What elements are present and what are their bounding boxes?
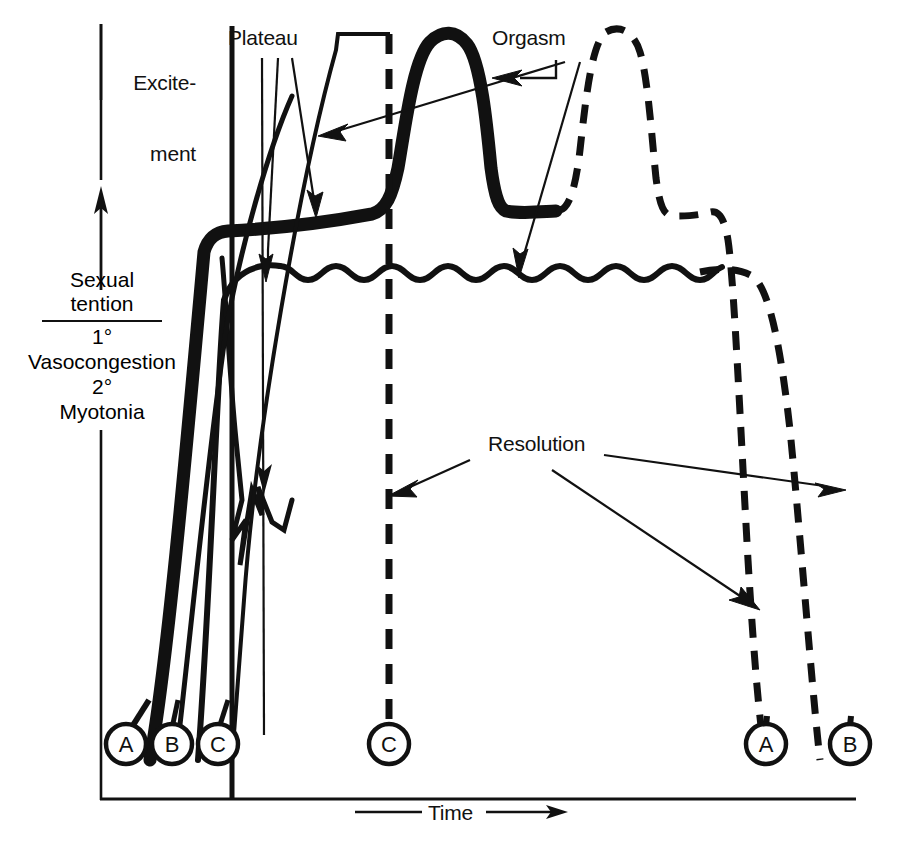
phase-label-plateau: Plateau [228,26,298,50]
plateau-leader-long [262,58,264,735]
resolution-arrow-up-right [815,483,846,497]
phase-label-excitement-line1: Excite- [102,71,196,95]
marker-a-right[interactable]: A [746,716,786,764]
plateau-arrow-thick [307,190,323,218]
y-axis-sub1-text: Vasocongestion [0,349,204,374]
curve-a-thick [150,33,556,760]
y-axis-label-group: Sexual tention 1° Vasocongestion 2° Myot… [0,268,204,425]
resolution-arrow-left [388,480,418,497]
phase-label-excitement-line2: ment [102,142,196,166]
curve-b-dashed [556,29,766,760]
resolution-leader-up-right [604,455,824,486]
y-axis-sub2: 2° [0,374,204,399]
y-axis-label-line1: Sexual [0,268,204,292]
degree-dot-icon-2: ° [104,375,112,398]
x-axis-label: Time [428,801,473,825]
y-axis-sub1: 1° [0,324,204,349]
marker-c-right-label: C [381,732,397,757]
marker-a-left[interactable]: A [106,700,149,764]
marker-b-right[interactable]: B [830,716,870,764]
marker-c-left-label: C [210,732,226,757]
y-axis-sub2-text: Myotonia [0,399,204,424]
orgasm-leader-bracket [520,60,556,78]
orgasm-leader-wavy [523,62,580,258]
curve-c-plateau-riser [232,34,390,760]
marker-a-right-label: A [759,732,774,757]
phase-label-orgasm: Orgasm [492,26,565,50]
resolution-leader-left [410,460,470,487]
y-axis-sub2-number: 2 [92,375,104,398]
resolution-leader-down-right [552,470,740,596]
phase-label-excitement: Excite- ment [102,24,196,212]
y-axis-label-line2: tention [0,292,204,316]
marker-a-left-label: A [119,732,134,757]
marker-group-left: A B C [106,700,238,764]
plateau-leader-thick [292,58,314,200]
figure-canvas: A B C C A [0,0,898,844]
resolution-leaders [388,455,846,610]
marker-b-right-label: B [843,732,858,757]
marker-group-right: C A B [369,716,870,764]
orgasm-leader-diagonal [334,62,565,132]
y-axis-sub1-number: 1 [92,325,104,348]
degree-dot-icon-1: ° [104,325,112,348]
orgasm-leaders [318,60,580,278]
phase-label-resolution: Resolution [488,432,585,456]
marker-c-right[interactable]: C [369,724,409,764]
orgasm-arrow-rising [318,124,348,141]
y-axis-divider-rule [42,320,162,322]
marker-b-left-label: B [165,732,180,757]
